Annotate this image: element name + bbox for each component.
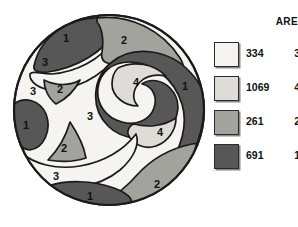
legend-title: ARE (276, 16, 298, 27)
region-label: 1 (63, 32, 69, 44)
legend-swatch-phase-4 (214, 76, 239, 101)
region-label: 2 (57, 83, 63, 95)
legend-area-value: 261 (246, 115, 264, 127)
region-label: 4 (133, 76, 140, 88)
region-label: 3 (42, 56, 48, 68)
region-map-svg: 1 3 3 2 2 1 3 4 1 4 2 3 1 2 (0, 0, 215, 227)
region-label: 2 (61, 142, 67, 154)
region-1-left (12, 100, 48, 150)
region-label: 3 (87, 110, 93, 122)
legend-row[interactable]: 691 1 (212, 144, 298, 171)
legend-row[interactable]: 261 2 (212, 110, 298, 137)
region-label: 3 (53, 170, 59, 182)
legend-swatch-phase-2 (214, 110, 239, 135)
region-label: 1 (182, 80, 188, 92)
region-label: 1 (87, 190, 93, 202)
region-label: 1 (23, 119, 29, 131)
legend-swatch-phase-3 (214, 42, 239, 67)
legend-phase-id: 3 (284, 47, 298, 59)
circular-region-map: 1 3 3 2 2 1 3 4 1 4 2 3 1 2 (0, 0, 215, 227)
legend-phase-id: 1 (284, 149, 298, 161)
legend-area-value: 1069 (246, 81, 269, 93)
region-label: 3 (30, 85, 36, 97)
legend-phase-id: 4 (284, 81, 298, 93)
legend-row[interactable]: 334 3 (212, 42, 298, 69)
region-label: 2 (154, 178, 160, 190)
region-label: 4 (157, 126, 164, 138)
legend-area-value: 334 (246, 47, 264, 59)
figure-root: 1 3 3 2 2 1 3 4 1 4 2 3 1 2 ARE 334 3 (0, 0, 298, 227)
legend-swatch-phase-1 (214, 144, 239, 169)
legend-row[interactable]: 1069 4 (212, 76, 298, 103)
legend-area-value: 691 (246, 149, 264, 161)
legend: ARE 334 3 1069 4 261 2 691 1 (212, 16, 298, 181)
region-label: 2 (121, 34, 127, 46)
legend-phase-id: 2 (284, 115, 298, 127)
